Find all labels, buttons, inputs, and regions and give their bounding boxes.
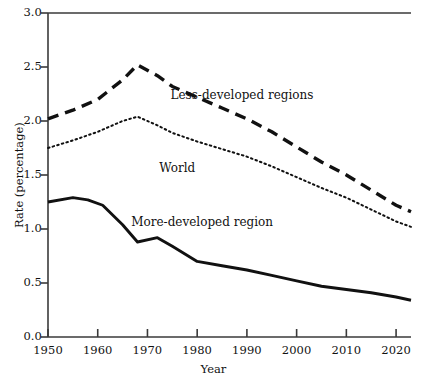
x-tick-label: 2010	[321, 343, 371, 357]
population-growth-rate-chart: Rate (percentage) Year 0.00.51.01.52.02.…	[0, 0, 427, 382]
series-line	[48, 117, 411, 227]
x-axis-title: Year	[0, 362, 427, 376]
y-tick-label: 0.5	[4, 275, 42, 289]
series-label: More-developed region	[131, 215, 273, 229]
x-tick-label: 1990	[222, 343, 272, 357]
x-tick-label: 1950	[23, 343, 73, 357]
x-tick-label: 1960	[73, 343, 123, 357]
y-tick-label: 2.5	[4, 59, 42, 73]
series-line	[48, 198, 411, 301]
y-tick-label: 2.0	[4, 113, 42, 127]
series-line	[48, 65, 411, 212]
y-tick-label: 3.0	[4, 5, 42, 19]
x-tick-label: 1970	[122, 343, 172, 357]
y-tick-label: 1.0	[4, 221, 42, 235]
x-tick-label: 2020	[371, 343, 421, 357]
series-label: World	[159, 161, 195, 175]
axes	[48, 13, 411, 337]
y-tick-label: 0.0	[4, 329, 42, 343]
series-label: Less-developed regions	[170, 88, 313, 102]
plot-area	[0, 0, 427, 382]
x-tick-label: 1980	[172, 343, 222, 357]
y-tick-label: 1.5	[4, 167, 42, 181]
x-tick-label: 2000	[272, 343, 322, 357]
